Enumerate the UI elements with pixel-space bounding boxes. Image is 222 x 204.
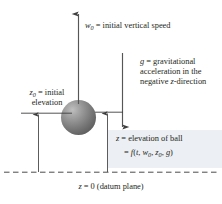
function-prefix: = [124,148,131,157]
gravity-label: g = gravitational acceleration in the ne… [140,57,220,88]
datum-text: = 0 (datum plane) [82,182,144,191]
function-arg-w-subscript: 0 [148,151,151,158]
elevation-label: z = elevation of ball [116,134,183,144]
initial-speed-subscript: 0 [91,24,94,31]
elevation-text: = elevation of ball [119,134,182,143]
elevation-function-label: = f(t, w0, z0, g) [124,148,173,158]
initial-elevation-subscript: 0 [33,91,36,98]
function-arg-z-subscript: 0 [159,151,162,158]
physics-diagram: w0 = initial vertical speed g = gravitat… [0,0,222,204]
datum-label: z = 0 (datum plane) [0,182,222,192]
gravity-text-2: -direction [174,77,207,86]
initial-speed-label: w0 = initial vertical speed [85,21,171,31]
function-close-paren: ) [170,148,173,157]
initial-speed-text: = initial vertical speed [94,21,171,30]
initial-elevation-label: z0 = initial elevation [16,88,78,108]
initial-elevation-text: = initial elevation [32,88,65,107]
initial-speed-symbol: w [85,21,91,30]
